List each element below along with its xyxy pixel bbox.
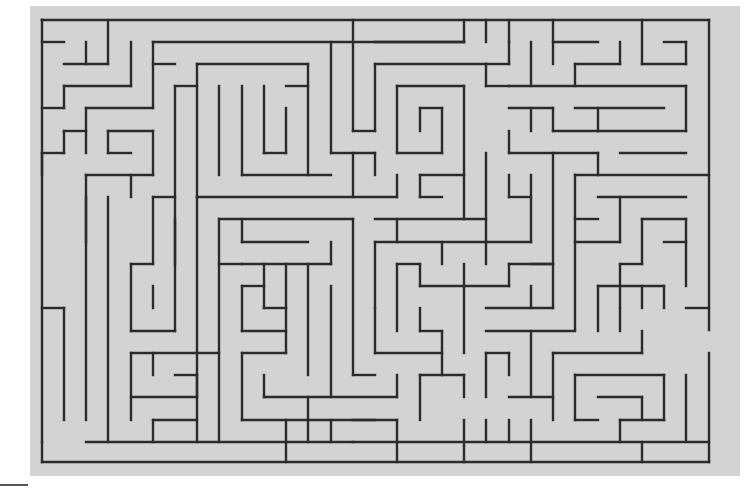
page-edge-mark: [0, 484, 28, 486]
maze-walls: [30, 6, 740, 476]
maze-board: [30, 6, 740, 476]
